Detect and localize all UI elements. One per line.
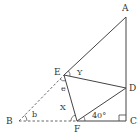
- point-label-C: C: [130, 116, 137, 126]
- point-label-A: A: [121, 3, 129, 13]
- angle-label-Y: Y: [76, 68, 83, 77]
- right-angle-mark-C: [119, 115, 126, 121]
- segment-AE: [64, 17, 126, 75]
- point-label-B: B: [6, 116, 13, 126]
- angle-label-X: X: [60, 103, 66, 112]
- segment-BE-dashed: [19, 75, 64, 121]
- segment-ED: [64, 75, 126, 88]
- angle-label-e: e: [61, 84, 66, 93]
- point-label-E: E: [54, 67, 61, 77]
- angle-arc-b: [25, 115, 27, 121]
- angle-arc-X: [71, 115, 75, 121]
- point-label-F: F: [74, 124, 80, 134]
- angle-arc-40: [84, 117, 85, 122]
- point-label-D: D: [129, 83, 136, 93]
- angle-label-b: b: [32, 110, 37, 119]
- geometry-diagram: A B C D E F b e Y X 40°: [0, 0, 139, 134]
- angle-label-40: 40°: [92, 111, 106, 120]
- segment-EF: [64, 75, 77, 121]
